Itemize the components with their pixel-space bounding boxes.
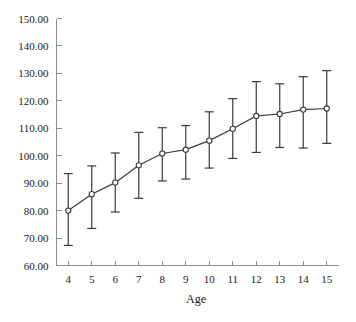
data-point-marker bbox=[277, 111, 282, 116]
y-tick-label: 130.00 bbox=[18, 67, 49, 79]
y-tick-label: 100.00 bbox=[18, 150, 49, 162]
data-point-marker bbox=[160, 151, 165, 156]
series-line-mean bbox=[68, 109, 327, 211]
data-point-marker bbox=[230, 126, 235, 131]
error-bars-group bbox=[64, 71, 332, 246]
data-point-marker bbox=[301, 107, 306, 112]
line-chart-with-error-bars: 60.0070.0080.0090.00100.00110.00120.0013… bbox=[0, 0, 356, 322]
y-tick-label: 140.00 bbox=[18, 40, 49, 52]
axis-frame bbox=[57, 19, 339, 266]
data-point-marker bbox=[66, 208, 71, 213]
x-tick-label: 14 bbox=[298, 273, 310, 285]
data-point-markers bbox=[66, 106, 330, 213]
y-tick-label: 80.00 bbox=[24, 205, 49, 217]
x-tick-label: 11 bbox=[227, 273, 238, 285]
x-tick-label: 8 bbox=[160, 273, 166, 285]
chart-container: 60.0070.0080.0090.00100.00110.00120.0013… bbox=[0, 0, 356, 322]
x-tick-label: 4 bbox=[66, 273, 72, 285]
data-point-marker bbox=[324, 106, 329, 111]
x-axis-tick-group: 456789101112131415 bbox=[66, 261, 333, 285]
x-tick-label: 9 bbox=[183, 273, 189, 285]
y-tick-label: 90.00 bbox=[24, 177, 49, 189]
y-axis-tick-group: 60.0070.0080.0090.00100.00110.00120.0013… bbox=[18, 13, 61, 272]
x-tick-label: 13 bbox=[274, 273, 286, 285]
x-tick-label: 6 bbox=[113, 273, 119, 285]
data-point-marker bbox=[113, 180, 118, 185]
data-point-marker bbox=[207, 138, 212, 143]
x-tick-label: 10 bbox=[204, 273, 216, 285]
x-tick-label: 7 bbox=[136, 273, 142, 285]
data-point-marker bbox=[136, 163, 141, 168]
y-tick-label: 150.00 bbox=[18, 13, 49, 25]
data-point-marker bbox=[254, 113, 259, 118]
y-tick-label: 70.00 bbox=[24, 232, 49, 244]
x-tick-label: 15 bbox=[321, 273, 333, 285]
data-point-marker bbox=[89, 192, 94, 197]
y-tick-label: 60.00 bbox=[24, 260, 49, 272]
x-tick-label: 5 bbox=[89, 273, 95, 285]
data-point-marker bbox=[183, 147, 188, 152]
x-tick-label: 12 bbox=[251, 273, 262, 285]
y-tick-label: 120.00 bbox=[18, 95, 49, 107]
y-tick-label: 110.00 bbox=[19, 122, 49, 134]
x-axis-title: Age bbox=[186, 292, 206, 306]
